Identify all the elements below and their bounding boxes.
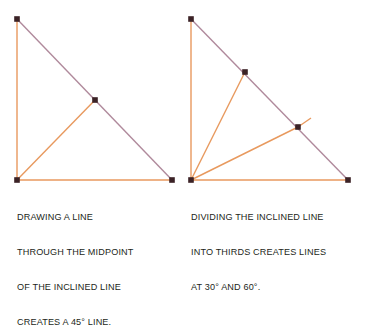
vertex-marker-second-third: [295, 124, 301, 130]
forty-five-degree-line: [17, 100, 95, 180]
caption-line: DIVIDING THE INCLINED LINE: [191, 212, 366, 224]
vertex-marker-apex: [188, 16, 194, 22]
vertex-marker-midpoint: [92, 97, 98, 103]
caption-midpoint: DRAWING A LINE THROUGH THE MIDPOINT OF T…: [0, 189, 200, 329]
vertex-marker-first-third: [242, 69, 248, 75]
caption-line: DRAWING A LINE: [17, 212, 200, 224]
thirty-degree-line: [191, 127, 298, 180]
vertex-marker-bottom-left: [188, 177, 194, 183]
diagram-panel-midpoint: DRAWING A LINE THROUGH THE MIDPOINT OF T…: [0, 0, 183, 245]
vertex-marker-bottom-right: [345, 177, 351, 183]
caption-line: CREATES A 45° LINE.: [17, 317, 200, 329]
sixty-degree-line: [191, 72, 245, 180]
caption-line: AT 30° AND 60°.: [191, 282, 366, 294]
caption-line: THROUGH THE MIDPOINT: [17, 247, 200, 259]
vertex-marker-bottom-left: [14, 177, 20, 183]
diagram-panel-thirds: DIVIDING THE INCLINED LINE INTO THIRDS C…: [183, 0, 366, 245]
caption-line: OF THE INCLINED LINE: [17, 282, 200, 294]
caption-line: INTO THIRDS CREATES LINES: [191, 247, 366, 259]
caption-thirds: DIVIDING THE INCLINED LINE INTO THIRDS C…: [183, 189, 366, 317]
vertex-marker-bottom-right: [169, 177, 175, 183]
inclined-hypotenuse: [191, 19, 348, 180]
midpoint-triangle-svg: [0, 0, 183, 190]
vertex-marker-apex: [14, 16, 20, 22]
thirds-triangle-svg: [183, 0, 366, 190]
